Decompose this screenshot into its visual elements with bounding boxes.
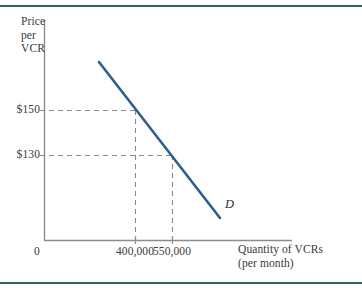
demand-curve-figure: PriceperVCR $150 $130 400,000 550,000 0 … [0, 0, 362, 293]
y-tick-label-150: $150 [2, 103, 40, 117]
origin-label: 0 [34, 245, 40, 259]
y-axis-title: PriceperVCR [21, 15, 45, 56]
y-axis-title-line3: VCR [21, 42, 45, 54]
x-axis-title-line1: Quantity of VCRs [238, 243, 323, 255]
y-axis-title-line1: Price [21, 15, 45, 27]
x-axis-title-line2: (per month) [238, 257, 294, 269]
demand-curve-label: D [225, 198, 234, 212]
y-axis-title-line2: per [21, 29, 36, 41]
x-tick-label-550000: 550,000 [142, 245, 202, 259]
x-axis-title: Quantity of VCRs(per month) [238, 243, 323, 270]
demand-curve-line [99, 62, 220, 218]
y-tick-label-130: $130 [2, 148, 40, 162]
